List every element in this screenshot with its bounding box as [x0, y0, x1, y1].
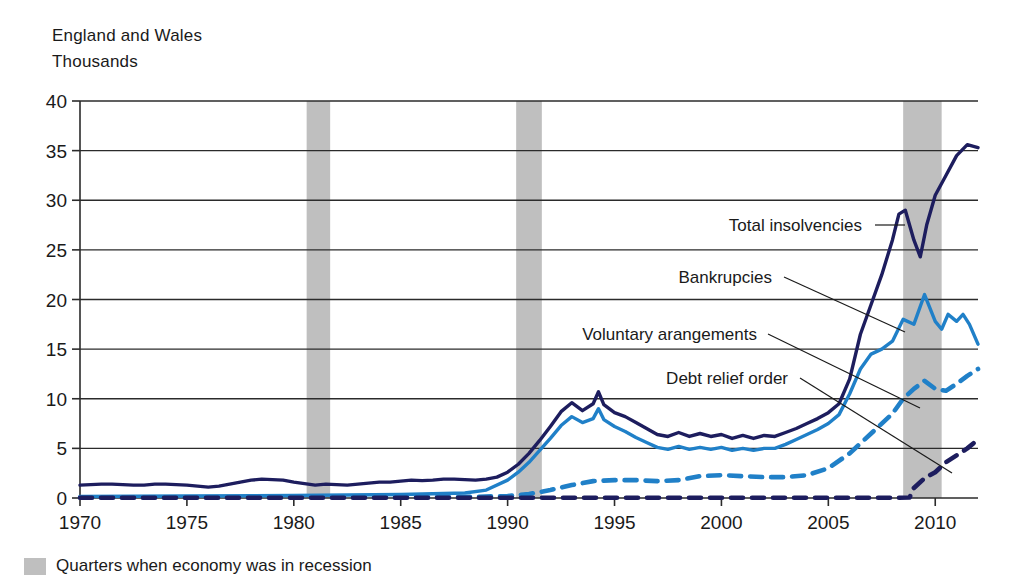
x-axis-ticks-group: 197019751980198519901995200020052010: [59, 498, 957, 533]
y-tick-label-30: 30: [46, 190, 67, 211]
annotation-leader-voluntary-arangements: [768, 334, 920, 408]
y-tick-label-40: 40: [46, 91, 67, 112]
x-tick-label-1970: 1970: [59, 512, 101, 533]
annotation-leader-bankrupcies: [784, 277, 905, 332]
plot-svg: 0510152025303540 19701975198019851990199…: [0, 0, 1010, 586]
insolvency-chart: England and Wales Thousands 051015202530…: [0, 0, 1010, 586]
y-tick-label-20: 20: [46, 290, 67, 311]
annotation-label-debt-relief-order: Debt relief order: [666, 369, 788, 388]
recession-legend-label: Quarters when economy was in recession: [56, 556, 372, 576]
x-tick-label-1985: 1985: [380, 512, 422, 533]
y-tick-label-0: 0: [56, 488, 67, 509]
y-tick-label-5: 5: [56, 438, 67, 459]
y-tick-label-35: 35: [46, 141, 67, 162]
annotation-label-voluntary-arangements: Voluntary arangements: [582, 325, 757, 344]
annotation-label-bankrupcies: Bankrupcies: [678, 268, 772, 287]
annotation-label-total-insolvencies: Total insolvencies: [729, 216, 862, 235]
x-tick-label-1975: 1975: [166, 512, 208, 533]
x-tick-label-1990: 1990: [486, 512, 528, 533]
y-tick-label-10: 10: [46, 389, 67, 410]
y-tick-label-25: 25: [46, 240, 67, 261]
x-tick-label-1980: 1980: [273, 512, 315, 533]
recession-legend-swatch: [24, 558, 46, 575]
y-tick-label-15: 15: [46, 339, 67, 360]
x-tick-label-1995: 1995: [593, 512, 635, 533]
x-tick-label-2010: 2010: [914, 512, 956, 533]
y-axis-ticks-group: 0510152025303540: [46, 91, 80, 509]
x-tick-label-2005: 2005: [807, 512, 849, 533]
x-tick-label-2000: 2000: [700, 512, 742, 533]
